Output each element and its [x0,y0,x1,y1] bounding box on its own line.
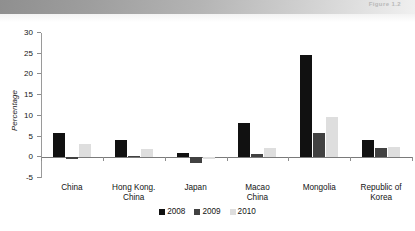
x-tick-label: Mongolia [288,183,350,193]
category-tick [350,157,351,161]
bar-2010-republic-of-korea [388,147,400,157]
bar-2009-macao-china [251,154,263,158]
category-tick [41,157,42,161]
bar-group [115,33,153,178]
x-tick-label: Japan [165,183,227,193]
page-header-band: Figure 1.2 [0,0,415,14]
page-header-fade [0,14,415,22]
legend-label: 2009 [202,207,220,216]
y-tick-mark [37,94,41,95]
bar-group [238,33,276,178]
bar-2010-hong-kong-china [141,149,153,157]
bar-2009-japan [190,157,202,163]
bar-2008-china [53,133,65,157]
y-tick-label: 5 [7,132,33,141]
category-tick [103,157,104,161]
page-header-title: Figure 1.2 [369,1,401,7]
bar-2010-macao-china [264,148,276,158]
x-tick-label: Republic ofKorea [350,183,412,202]
legend-item-2009[interactable]: 2009 [194,207,220,216]
x-tick-label-line: Mongolia [288,183,350,193]
x-tick-label-line: Republic of [350,183,412,193]
y-tick-mark [37,136,41,137]
bar-2008-macao-china [238,123,250,157]
y-tick-mark [37,32,41,33]
bar-2009-mongolia [313,133,325,157]
bar-2010-japan [203,157,215,159]
bar-2010-china [79,144,91,157]
bar-2008-hong-kong-china [115,140,127,157]
bar-2009-china [66,157,78,159]
bar-group [362,33,400,178]
bar-group [53,33,91,178]
bar-2010-mongolia [326,117,338,157]
bar-chart: Percentage 302520151050-5ChinaHong Kong.… [0,22,415,231]
plot-area: 302520151050-5ChinaHong Kong.ChinaJapanM… [41,33,412,178]
legend-item-2010[interactable]: 2010 [230,207,256,216]
y-tick-mark [37,53,41,54]
legend-swatch-icon [194,209,200,215]
y-tick-mark [37,177,41,178]
y-tick-label: 15 [7,90,33,99]
legend-label: 2008 [167,207,185,216]
x-tick-label: MacaoChina [227,183,289,202]
bar-2009-hong-kong-china [128,156,140,157]
x-tick-label-line: China [103,193,165,203]
legend-swatch-icon [230,209,236,215]
y-tick-label: 20 [7,69,33,78]
x-tick-label: Hong Kong.China [103,183,165,202]
bar-group [300,33,338,178]
x-tick-label-line: China [41,183,103,193]
category-tick [288,157,289,161]
legend-item-2008[interactable]: 2008 [159,207,185,216]
scanned-page: Figure 1.2 Percentage 302520151050-5Chin… [0,0,415,231]
chart-legend: 200820092010 [0,207,415,216]
legend-label: 2010 [238,207,256,216]
bar-2008-mongolia [300,55,312,157]
x-tick-label-line: Macao [227,183,289,193]
x-tick-label: China [41,183,103,193]
bar-2009-republic-of-korea [375,148,387,158]
category-tick [165,157,166,161]
x-tick-label-line: China [227,193,289,203]
y-tick-label: 0 [7,152,33,161]
category-tick [412,157,413,161]
y-tick-label: 30 [7,28,33,37]
legend-swatch-icon [159,209,165,215]
bar-group [177,33,215,178]
x-tick-label-line: Japan [165,183,227,193]
y-tick-label: 10 [7,111,33,120]
y-tick-mark [37,73,41,74]
x-tick-label-line: Korea [350,193,412,203]
category-tick [227,157,228,161]
y-tick-mark [37,115,41,116]
x-tick-label-line: Hong Kong. [103,183,165,193]
bar-2008-japan [177,153,189,158]
y-tick-label: 25 [7,49,33,58]
bar-2008-republic-of-korea [362,140,374,157]
y-tick-label: -5 [7,173,33,182]
